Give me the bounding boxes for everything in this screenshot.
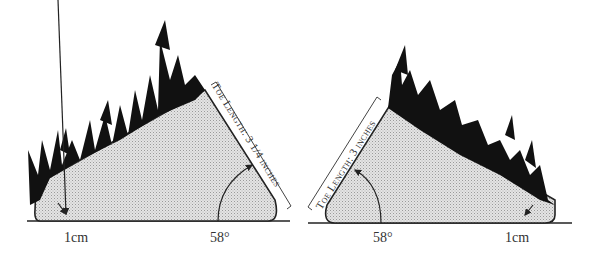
- angle-label-right: 58°: [373, 230, 393, 246]
- heel-label-left: 1cm: [64, 230, 88, 246]
- right-hoof: [308, 45, 572, 223]
- left-hoof: [27, 0, 291, 221]
- angle-label-left: 58°: [210, 230, 230, 246]
- hoof-diagram-canvas: [0, 0, 591, 262]
- heel-label-right: 1cm: [505, 230, 529, 246]
